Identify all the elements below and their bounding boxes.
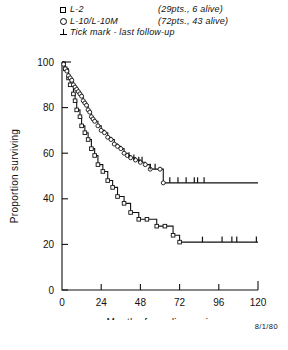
series-L-10/L-10M [62, 62, 258, 185]
svg-text:96: 96 [213, 297, 225, 308]
svg-text:72: 72 [174, 297, 186, 308]
legend-label-tick: Tick mark - last follow-up [70, 27, 175, 39]
tick-marker-icon [56, 27, 70, 39]
svg-text:0: 0 [59, 297, 65, 308]
figure-date: 8/1/80 [255, 322, 278, 331]
svg-text:0: 0 [48, 285, 54, 296]
series-L-2 [62, 62, 258, 244]
curves-layer [62, 62, 258, 244]
svg-text:60: 60 [43, 148, 55, 159]
svg-text:120: 120 [250, 297, 267, 308]
square-marker-icon [56, 4, 70, 16]
legend-item-l10: L-10/L-10M (72pts., 43 alive) [56, 16, 228, 28]
axes-layer [62, 62, 258, 290]
svg-text:Proportion surviving: Proportion surviving [9, 129, 20, 223]
svg-text:48: 48 [135, 297, 147, 308]
svg-text:40: 40 [43, 193, 55, 204]
svg-text:80: 80 [43, 102, 55, 113]
svg-text:Months from diagnosis: Months from diagnosis [107, 317, 214, 320]
legend-label-l10: L-10/L-10M [70, 16, 158, 28]
svg-text:20: 20 [43, 239, 55, 250]
legend-label-l2: L-2 [70, 4, 158, 16]
svg-text:24: 24 [96, 297, 108, 308]
legend-note-l10: (72pts., 43 alive) [158, 16, 228, 28]
legend-item-l2: L-2 (29pts., 6 alive) [56, 4, 228, 16]
chart-legend: L-2 (29pts., 6 alive) L-10/L-10M (72pts.… [56, 4, 228, 39]
circle-marker-icon [56, 16, 70, 28]
legend-item-tick: Tick mark - last follow-up [56, 27, 228, 39]
legend-note-l2: (29pts., 6 alive) [158, 4, 223, 16]
axis-labels-layer: 020406080100024487296120Months from diag… [9, 57, 267, 320]
survival-plot: 020406080100024487296120Months from diag… [0, 0, 288, 320]
kaplan-meier-figure: L-2 (29pts., 6 alive) L-10/L-10M (72pts.… [0, 0, 288, 350]
svg-text:100: 100 [37, 57, 54, 68]
